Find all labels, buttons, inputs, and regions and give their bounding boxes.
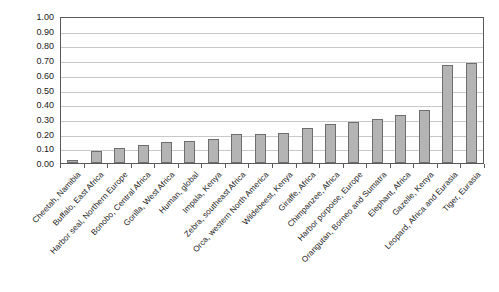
y-axis-tick-label: 0.80 — [24, 42, 54, 51]
y-axis-tick-label: 0.40 — [24, 101, 54, 110]
bar-slot — [61, 18, 84, 163]
y-axis-tick-label: 0.30 — [24, 115, 54, 124]
x-axis-tick — [484, 164, 485, 168]
bar-slot — [225, 18, 248, 163]
x-axis-category-labels: Cheetah, NamibiaBuffalo, East AfricaHarb… — [60, 168, 484, 292]
bar-slot — [342, 18, 365, 163]
bar-slot — [436, 18, 459, 163]
bar — [278, 133, 289, 163]
bar-slot — [319, 18, 342, 163]
bar-slot — [295, 18, 318, 163]
bar — [208, 139, 219, 163]
bar — [419, 110, 430, 163]
bar-slot — [413, 18, 436, 163]
y-axis-tick-label: 0.00 — [24, 160, 54, 169]
y-axis-tick-labels: 1.000.900.800.700.600.500.400.300.200.10… — [24, 17, 54, 164]
plot-area — [60, 17, 484, 164]
y-axis-tick-label: 0.60 — [24, 71, 54, 80]
y-axis-tick-label: 0.90 — [24, 27, 54, 36]
bar — [466, 63, 477, 163]
bar — [442, 65, 453, 163]
chart-figure: Average FST 1.000.900.800.700.600.500.40… — [0, 0, 499, 292]
bar-slot — [272, 18, 295, 163]
y-axis-tick-label: 0.20 — [24, 130, 54, 139]
y-axis-tick-label: 0.10 — [24, 145, 54, 154]
bar-slot — [178, 18, 201, 163]
bar — [302, 128, 313, 163]
bar-slot — [155, 18, 178, 163]
y-axis-tick-label: 0.50 — [24, 86, 54, 95]
bar-slot — [131, 18, 154, 163]
bar — [348, 122, 359, 163]
bar — [161, 142, 172, 163]
bar-slot — [249, 18, 272, 163]
bar-slot — [108, 18, 131, 163]
bar — [91, 151, 102, 163]
bar — [395, 115, 406, 163]
bar-slot — [202, 18, 225, 163]
bar — [255, 134, 266, 163]
bar — [184, 141, 195, 163]
y-axis-tick-label: 1.00 — [24, 13, 54, 22]
bar — [325, 124, 336, 163]
bar-slot — [366, 18, 389, 163]
bar-slot — [84, 18, 107, 163]
bar — [231, 134, 242, 163]
bar — [138, 145, 149, 163]
bar — [67, 160, 78, 163]
bar-series — [61, 18, 483, 163]
bar-slot — [459, 18, 482, 163]
bar-slot — [389, 18, 412, 163]
bar — [114, 148, 125, 163]
y-axis-tick-label: 0.70 — [24, 57, 54, 66]
bar — [372, 119, 383, 163]
